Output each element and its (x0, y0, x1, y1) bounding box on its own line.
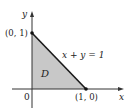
line-equation-label: x + y = 1 (62, 50, 104, 60)
point-1-0-label: (1, 0) (75, 92, 98, 102)
y-axis-label: y (21, 9, 28, 19)
x-axis-label: x (119, 92, 124, 102)
point-0-1 (30, 31, 34, 35)
point-1-0 (84, 87, 88, 91)
point-0-1-label: (0, 1) (5, 28, 28, 38)
origin-label: 0 (24, 92, 30, 102)
region-diagram: y x 0 (0, 1) (1, 0) x + y = 1 D (0, 0, 129, 112)
y-axis-arrow-icon (30, 11, 34, 17)
x-axis-arrow-icon (118, 87, 124, 91)
region-label: D (40, 68, 49, 79)
